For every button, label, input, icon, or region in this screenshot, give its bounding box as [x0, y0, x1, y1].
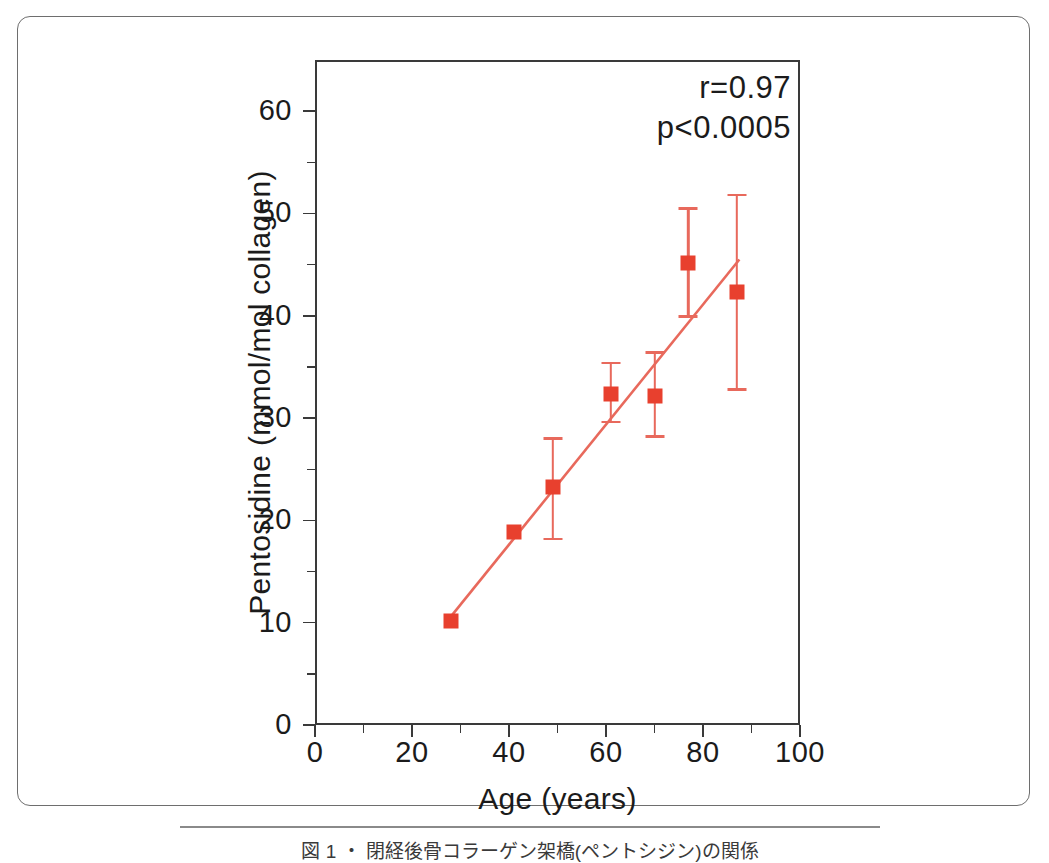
caption-divider — [180, 826, 880, 828]
figure-caption: 図 1 ・ 閉経後骨コラーゲン架橋(ペントシジン)の関係 — [180, 836, 880, 863]
